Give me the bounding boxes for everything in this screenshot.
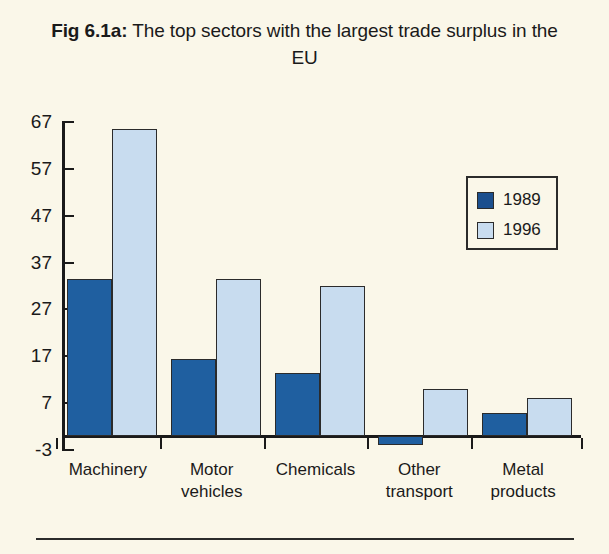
x-axis-category-label: Chemicals	[264, 459, 368, 481]
chart-legend: 1989 1996	[466, 176, 558, 250]
y-axis-label: 57	[0, 158, 52, 180]
bar-metal-products-1996	[527, 398, 572, 435]
legend-item-1996: 1996	[477, 215, 556, 245]
y-axis-label: 47	[0, 205, 52, 227]
bottom-divider	[36, 538, 574, 540]
x-axis-category-label: Machinery	[56, 459, 160, 481]
x-axis-category-label: Metal products	[471, 459, 575, 503]
y-axis-label: 67	[0, 111, 52, 133]
legend-item-1989: 1989	[477, 185, 556, 215]
figure-title-text: The top sectors with the largest trade s…	[127, 20, 557, 68]
x-axis-tick	[471, 438, 473, 449]
figure-label: Fig 6.1a:	[51, 20, 127, 41]
bar-other-transport-1996	[423, 389, 468, 436]
x-axis-tick	[581, 438, 583, 449]
y-axis-label: 17	[0, 345, 52, 367]
y-axis-tick	[65, 168, 74, 170]
legend-label-1996: 1996	[503, 220, 541, 240]
x-axis-tick	[56, 438, 58, 449]
x-axis-tick	[160, 438, 162, 449]
legend-swatch-1996	[477, 222, 494, 239]
y-axis-tick	[65, 121, 74, 123]
bar-machinery-1989	[67, 279, 112, 436]
bar-motor-vehicles-1989	[171, 359, 216, 436]
y-axis-label: -3	[0, 439, 52, 461]
y-axis-label: 7	[0, 392, 52, 414]
y-axis-label: 37	[0, 252, 52, 274]
y-axis-tick	[65, 215, 74, 217]
bar-other-transport-1989	[378, 436, 423, 445]
chart-title: Fig 6.1a: The top sectors with the large…	[40, 17, 569, 71]
x-axis-category-label: Other transport	[367, 459, 471, 503]
bar-machinery-1996	[112, 129, 157, 436]
bar-motor-vehicles-1996	[216, 279, 261, 436]
x-axis-category-label: Motor vehicles	[160, 459, 264, 503]
bar-chemicals-1996	[320, 286, 365, 436]
legend-swatch-1989	[477, 192, 494, 209]
x-axis-tick	[264, 438, 266, 449]
x-axis-tick	[367, 438, 369, 449]
legend-label-1989: 1989	[503, 190, 541, 210]
figure-container: Fig 6.1a: The top sectors with the large…	[0, 0, 609, 554]
bar-metal-products-1989	[482, 413, 527, 436]
bar-chemicals-1989	[275, 373, 320, 436]
y-axis-tick	[65, 262, 74, 264]
y-axis-label: 27	[0, 298, 52, 320]
y-axis-tick	[65, 449, 74, 451]
